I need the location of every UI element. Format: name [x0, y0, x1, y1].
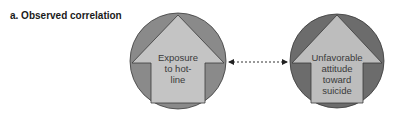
label-line: Exposure [143, 52, 213, 63]
label-line: Unfavorable [300, 52, 374, 63]
label-line: attitude [300, 63, 374, 74]
label-line: line [143, 74, 213, 85]
node-label-exposure: Exposure to hot- line [143, 52, 213, 85]
label-line: suicide [300, 85, 374, 96]
label-line: to hot- [143, 63, 213, 74]
node-label-attitude: Unfavorable attitude toward suicide [300, 52, 374, 96]
label-line: toward [300, 74, 374, 85]
